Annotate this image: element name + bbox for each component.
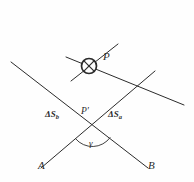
subscript-a: a (119, 113, 122, 120)
label-segment-delta-s-b: ΔSb (45, 110, 59, 119)
s-symbol-b: S (51, 109, 56, 119)
label-angle-gamma: γ (89, 139, 93, 148)
label-ray-b: B (148, 160, 155, 171)
line-ray-b (11, 62, 148, 168)
label-segment-delta-s-a: ΔSa (108, 110, 122, 119)
geometry-figure: P P′ ΔSb ΔSa γ A B (0, 0, 194, 182)
subscript-b: b (56, 113, 59, 120)
label-point-p: P (103, 51, 110, 62)
figure-canvas (0, 0, 194, 182)
label-ray-a: A (38, 160, 45, 171)
s-symbol-a: S (114, 109, 119, 119)
label-point-p-prime: P′ (81, 107, 89, 117)
crossed-circle-marker (82, 59, 97, 74)
